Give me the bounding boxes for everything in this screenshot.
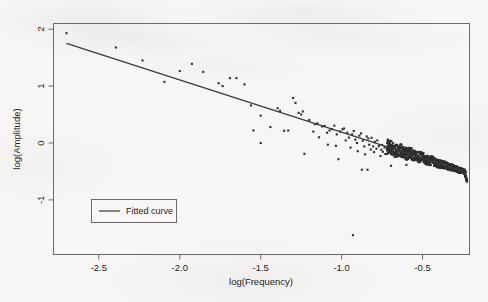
data-point — [222, 85, 224, 87]
data-point — [303, 153, 305, 155]
data-point — [392, 142, 394, 144]
data-point — [327, 144, 329, 146]
data-point — [328, 129, 330, 131]
data-point — [379, 155, 381, 157]
data-point — [352, 234, 354, 236]
data-point — [252, 129, 254, 131]
data-point — [354, 139, 356, 141]
data-point — [235, 77, 237, 79]
data-point — [405, 164, 407, 166]
y-tick-label: -1 — [36, 196, 47, 204]
data-point — [367, 137, 369, 139]
x-tick-label: -1.0 — [333, 262, 349, 273]
data-point — [163, 81, 165, 83]
scatter-points — [65, 32, 411, 236]
data-point — [366, 135, 368, 137]
data-point — [260, 115, 262, 117]
y-axis-title: log(Amplitude) — [11, 108, 22, 169]
data-point — [300, 113, 302, 115]
x-tick-label: -0.5 — [414, 262, 430, 273]
data-point — [333, 125, 335, 127]
data-point — [298, 112, 300, 114]
data-point — [376, 139, 378, 141]
y-axis-ticks: 210-1 — [36, 27, 54, 205]
data-point — [260, 142, 262, 144]
data-point — [400, 144, 402, 146]
legend[interactable]: Fitted curve — [92, 200, 177, 223]
data-point — [362, 140, 364, 142]
data-point — [250, 104, 252, 106]
data-point — [358, 135, 360, 137]
data-point — [364, 153, 366, 155]
data-point — [343, 127, 345, 129]
legend-entry-label: Fitted curve — [126, 206, 173, 216]
data-point — [353, 130, 355, 132]
data-point — [318, 136, 320, 138]
data-point — [337, 158, 339, 160]
data-point — [277, 107, 279, 109]
data-point — [372, 145, 374, 147]
data-point — [430, 164, 432, 166]
data-point — [312, 131, 314, 133]
data-point — [419, 161, 421, 163]
data-point — [292, 97, 294, 99]
data-point — [466, 181, 468, 183]
data-point — [115, 46, 117, 48]
data-point — [65, 32, 67, 34]
x-tick-label: -2.0 — [172, 262, 188, 273]
data-point — [375, 148, 377, 150]
data-point — [422, 152, 424, 154]
data-point — [373, 151, 375, 153]
data-point — [179, 70, 181, 72]
data-point — [294, 102, 296, 104]
data-point — [191, 63, 193, 65]
data-point — [356, 142, 358, 144]
data-point — [349, 146, 351, 148]
data-point — [141, 59, 143, 61]
x-axis-ticks: -2.5-2.0-1.5-1.0-0.5 — [91, 255, 431, 273]
data-point — [283, 130, 285, 132]
x-axis-title: log(Frequency) — [229, 276, 293, 287]
data-point — [370, 148, 372, 150]
data-point — [202, 71, 204, 73]
data-point — [382, 151, 384, 153]
fitted-curve-line — [66, 43, 467, 172]
data-point — [360, 132, 362, 134]
data-point — [287, 129, 289, 131]
data-point — [345, 139, 347, 141]
data-point — [269, 126, 271, 128]
data-point — [302, 110, 304, 112]
data-point — [335, 145, 337, 147]
y-tick-label: 2 — [36, 27, 47, 32]
data-point — [308, 119, 310, 121]
scatter-plot: -2.5-2.0-1.5-1.0-0.5 210-1 log(Frequency… — [0, 0, 488, 302]
data-point — [390, 140, 392, 142]
data-point — [378, 145, 380, 147]
plot-frame — [54, 24, 470, 255]
data-point — [366, 169, 368, 171]
x-tick-label: -2.5 — [91, 262, 107, 273]
data-point — [371, 137, 373, 139]
data-point — [390, 165, 392, 167]
data-point — [229, 77, 231, 79]
data-point — [402, 146, 404, 148]
data-point — [380, 149, 382, 151]
figure-container: -2.5-2.0-1.5-1.0-0.5 210-1 log(Frequency… — [0, 0, 488, 302]
data-point — [348, 137, 350, 139]
data-point — [243, 83, 245, 85]
data-point — [464, 168, 466, 170]
data-point — [336, 133, 338, 135]
data-point — [368, 144, 370, 146]
y-tick-label: 0 — [36, 140, 47, 145]
y-tick-label: 1 — [36, 83, 47, 88]
data-point — [396, 144, 398, 146]
data-point — [363, 145, 365, 147]
data-point — [357, 150, 359, 152]
data-point — [361, 169, 363, 171]
data-point — [218, 82, 220, 84]
x-tick-label: -1.5 — [253, 262, 269, 273]
data-point — [326, 132, 328, 134]
dense-point-band — [386, 139, 468, 183]
